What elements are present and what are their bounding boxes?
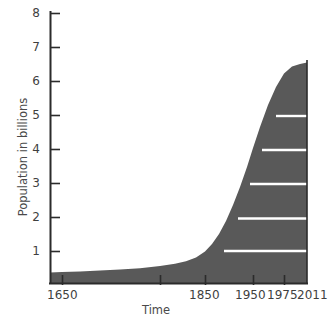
x-axis-title: Time [142,303,170,317]
x-tick-label-1975: 1975 [267,288,298,302]
y-tick-label-7: 7 [14,40,40,54]
x-tick-label-1650: 1650 [47,288,78,302]
y-tick-label-1: 1 [14,244,40,258]
x-tick-label-1950: 1950 [235,288,266,302]
x-tick-label-1850: 1850 [189,288,220,302]
y-axis-ticks [51,14,60,252]
y-tick-label-8: 8 [14,6,40,20]
x-tick-label-2011: 2011 [297,288,328,302]
y-axis-title: Population in billions [16,82,30,232]
